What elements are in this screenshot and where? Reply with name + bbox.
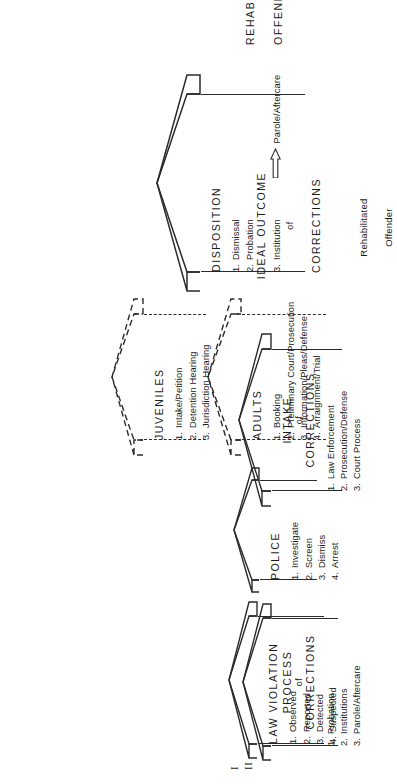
item-number: 2. [338,479,351,491]
item-number: 1. [325,479,338,491]
item-number: 3. [351,734,364,746]
process-items: 1.Probation 2.Institutions 3.Parole/Afte… [325,665,365,746]
arrowhead [238,332,272,508]
row-two: II PROCESS of CORRECTIONS 1.Probation 2.… [196,0,355,784]
item-number: 1. [325,734,338,746]
item-label: Parole/Aftercare [351,665,364,734]
ideal-outcome-title: IDEAL OUTCOME [255,172,267,279]
intake-of-label: of [294,416,304,425]
arrowhead [155,72,201,294]
arrowhead [110,296,144,458]
row-one: I LAW VIOLATION 1.Observed 2.Reported 3.… [0,0,196,784]
process-of-label: of [294,678,304,687]
ideal-outcome-label: IDEAL OUTCOME of CORRECTIONS Rehabilitat… [241,164,397,314]
ideal-of-label: of [285,221,295,230]
item-number: 2. [338,734,351,746]
item-label: Law Enforcement [325,405,338,479]
item-number: 3. [351,479,364,491]
item-label: Intake/Petition [173,368,186,428]
intake-subtitle: CORRECTIONS [304,372,317,467]
ideal-outcome-subtitle: CORRECTIONS [310,178,322,273]
row-numeral-two: II [242,762,254,770]
intake-of-corrections-arrow: INTAKE of CORRECTIONS 1.Law Enforcement … [238,332,342,508]
item-label: Probation [325,693,338,734]
ideal-detail-line-one: Rehabilitated [358,199,369,257]
item-label: Prosecution/Defense [338,391,351,479]
juveniles-arrow: JUVENILES 1.Intake/Petition 2.Detention … [110,296,206,458]
item-number: 1. [173,428,186,440]
item-label: Institutions [338,688,351,734]
process-of-corrections-arrow: PROCESS of CORRECTIONS 1.Probation 2.Ins… [242,602,338,762]
intake-title: INTAKE [281,397,294,444]
item-label: Court Process [351,419,364,479]
arrowhead [242,602,272,762]
process-subtitle: CORRECTIONS [304,634,317,729]
juveniles-title: JUVENILES [153,368,166,440]
process-title: PROCESS [281,651,294,714]
ideal-detail-line-two: Offender [383,208,394,246]
intake-items: 1.Law Enforcement 2.Prosecution/Defense … [325,391,365,491]
